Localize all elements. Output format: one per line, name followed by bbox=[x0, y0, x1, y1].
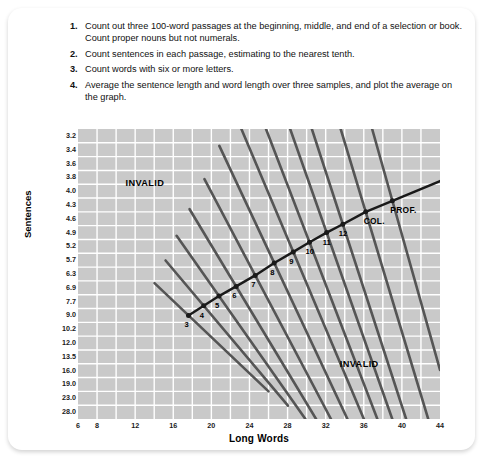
grade-label-11: 11 bbox=[323, 238, 331, 247]
x-tick-label: 44 bbox=[428, 421, 452, 430]
grade-label-7: 7 bbox=[251, 280, 255, 289]
grade-label-3: 3 bbox=[185, 320, 189, 329]
x-tick-label: 12 bbox=[123, 421, 147, 430]
x-tick-label: 8 bbox=[85, 421, 109, 430]
instruction-number: 4. bbox=[70, 79, 85, 91]
y-tick-label: 3.2 bbox=[52, 132, 76, 140]
y-tick-label: 4.3 bbox=[52, 201, 76, 209]
grade-lines-and-curve bbox=[78, 129, 440, 419]
grade-label-4: 4 bbox=[200, 311, 204, 320]
x-tick-label: 40 bbox=[390, 421, 414, 430]
fry-readability-chart: Sentences 3.23.43.63.84.04.34.64.95.25.7… bbox=[8, 108, 475, 450]
grade-label-6: 6 bbox=[232, 291, 236, 300]
readability-graph-card: 1. Count out three 100-word passages at … bbox=[8, 8, 475, 450]
x-tick-label: 24 bbox=[237, 421, 261, 430]
instruction-number: 1. bbox=[70, 20, 85, 32]
y-tick-label: 6.9 bbox=[52, 284, 76, 292]
y-tick-label: 6.3 bbox=[52, 270, 76, 278]
x-tick-label: 32 bbox=[314, 421, 338, 430]
instruction-text: Count sentences in each passage, estimat… bbox=[85, 48, 465, 60]
y-tick-label: 12.0 bbox=[52, 339, 76, 347]
curve-point-marker bbox=[272, 260, 277, 265]
y-tick-label: 3.8 bbox=[52, 173, 76, 181]
plot-area: 3456789101112COL.PROF.INVALIDINVALID bbox=[78, 129, 440, 419]
grade-label-10: 10 bbox=[305, 247, 313, 256]
x-axis-tick-labels: 68121620242832364044 bbox=[78, 421, 440, 433]
y-tick-label: 4.9 bbox=[52, 229, 76, 237]
y-tick-label: 9.0 bbox=[52, 311, 76, 319]
curve-point-marker bbox=[201, 303, 206, 308]
curve-point-marker bbox=[324, 230, 329, 235]
curve-point-marker bbox=[291, 249, 296, 254]
y-tick-label: 3.6 bbox=[52, 160, 76, 168]
y-tick-label: 4.0 bbox=[52, 187, 76, 195]
instruction-item: 3. Count words with six or more letters. bbox=[70, 63, 465, 75]
grade-label-8: 8 bbox=[270, 268, 274, 277]
curve-point-marker bbox=[307, 240, 312, 245]
y-tick-label: 19.0 bbox=[52, 380, 76, 388]
x-tick-label: 28 bbox=[276, 421, 300, 430]
curve-point-marker bbox=[363, 209, 368, 214]
zone-label-col: COL. bbox=[364, 216, 385, 226]
x-tick-label: 36 bbox=[352, 421, 376, 430]
y-tick-label: 3.4 bbox=[52, 146, 76, 154]
y-tick-label: 23.0 bbox=[52, 394, 76, 402]
y-tick-label: 4.6 bbox=[52, 215, 76, 223]
curve-point-marker bbox=[340, 222, 345, 227]
instruction-text: Count out three 100-word passages at the… bbox=[85, 20, 465, 45]
y-tick-label: 7.7 bbox=[52, 298, 76, 306]
instruction-item: 2. Count sentences in each passage, esti… bbox=[70, 48, 465, 60]
x-tick-label: 20 bbox=[199, 421, 223, 430]
y-tick-label: 5.2 bbox=[52, 242, 76, 250]
x-tick-label: 16 bbox=[161, 421, 185, 430]
x-axis-title: Long Words bbox=[78, 433, 440, 444]
grade-label-5: 5 bbox=[215, 301, 219, 310]
grade-label-9: 9 bbox=[289, 257, 293, 266]
y-tick-label: 10.2 bbox=[52, 325, 76, 333]
y-axis-tick-labels: 3.23.43.63.84.04.34.64.95.25.76.36.97.79… bbox=[46, 129, 76, 419]
grade-label-12: 12 bbox=[339, 229, 347, 238]
y-tick-label: 13.5 bbox=[52, 353, 76, 361]
instruction-number: 3. bbox=[70, 63, 85, 75]
zone-label-prof: PROF. bbox=[390, 205, 416, 215]
instructions-list: 1. Count out three 100-word passages at … bbox=[70, 20, 465, 106]
curve-point-marker bbox=[253, 273, 258, 278]
instruction-item: 4. Average the sentence length and word … bbox=[70, 79, 465, 104]
instruction-item: 1. Count out three 100-word passages at … bbox=[70, 20, 465, 45]
y-axis-title: Sentences bbox=[22, 190, 33, 238]
instruction-text: Average the sentence length and word len… bbox=[85, 79, 465, 104]
curve-point-marker bbox=[234, 284, 239, 289]
instruction-number: 2. bbox=[70, 48, 85, 60]
y-tick-label: 5.7 bbox=[52, 256, 76, 264]
curve-point-marker bbox=[216, 294, 221, 299]
invalid-region-label: INVALID bbox=[125, 178, 164, 188]
invalid-region-label: INVALID bbox=[340, 359, 379, 369]
y-tick-label: 28.0 bbox=[52, 408, 76, 416]
curve-point-marker bbox=[186, 313, 191, 318]
instruction-text: Count words with six or more letters. bbox=[85, 63, 465, 75]
y-tick-label: 16.0 bbox=[52, 367, 76, 375]
curve-point-marker bbox=[390, 198, 395, 203]
